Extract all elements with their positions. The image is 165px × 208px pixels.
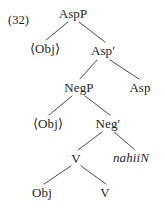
tree-node-nahiin: nahiiN	[113, 151, 149, 164]
tree-node-obj2: ⟨Obj⟩	[33, 117, 63, 130]
tree-edge-negp-to-obj2	[49, 96, 72, 115]
tree-edge-v1-to-v2	[81, 166, 106, 184]
figure-canvas: (32) AspP⟨Obj⟩Asp′NegPAsp⟨Obj⟩Neg′Vnahii…	[0, 0, 165, 208]
tree-node-obj3: Obj	[32, 186, 52, 199]
tree-node-negbar: Neg′	[96, 117, 121, 130]
tree-node-obj1: ⟨Obj⟩	[30, 42, 60, 55]
tree-edge-negp-to-negbar	[85, 96, 110, 115]
tree-node-v1: V	[71, 152, 81, 165]
tree-node-asp: Asp	[129, 81, 150, 94]
tree-edge-aspbar-to-negp	[80, 60, 97, 79]
tree-node-aspbar: Asp′	[91, 44, 115, 57]
tree-edge-v1-to-obj3	[44, 166, 71, 184]
tree-branch-lines	[0, 0, 165, 208]
tree-edge-aspp-to-aspbar	[79, 22, 105, 42]
tree-edge-aspp-to-obj1	[46, 22, 68, 40]
tree-node-v2: V	[100, 186, 110, 199]
tree-node-aspp: AspP	[59, 7, 88, 20]
tree-edge-negbar-to-v1	[78, 132, 102, 150]
tree-node-negp: NegP	[64, 81, 93, 94]
tree-edge-negbar-to-nahiin	[114, 132, 134, 149]
tree-edge-aspbar-to-asp	[110, 60, 139, 79]
